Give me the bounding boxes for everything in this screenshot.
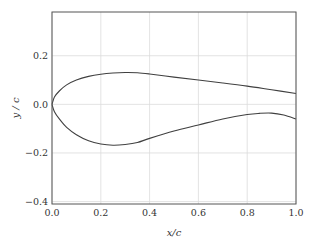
data-series <box>52 73 296 146</box>
x-axis-label: x/c <box>167 227 182 238</box>
y-tick-label: 0.2 <box>33 50 48 61</box>
x-tick-label: 0.0 <box>44 207 59 218</box>
x-tick-label: 0.4 <box>142 207 157 218</box>
x-tick-label: 0.6 <box>191 207 206 218</box>
upper-surface-line <box>52 73 296 105</box>
y-tick-label: −0.2 <box>25 147 48 158</box>
lower-surface-line <box>52 104 296 145</box>
y-axis-label: y / c <box>10 97 21 119</box>
y-tick-labels: 0.20.0−0.2−0.4 <box>25 50 48 207</box>
y-tick-label: 0.0 <box>33 99 48 110</box>
x-tick-label: 0.8 <box>240 207 255 218</box>
axes-frame <box>52 12 296 204</box>
airfoil-chart: 0.00.20.40.60.81.0 0.20.0−0.2−0.4 x/c y … <box>0 0 316 240</box>
grid-lines <box>52 12 296 204</box>
x-tick-label: 1.0 <box>288 207 303 218</box>
x-tick-label: 0.2 <box>93 207 108 218</box>
x-tick-labels: 0.00.20.40.60.81.0 <box>44 207 303 218</box>
y-tick-label: −0.4 <box>25 196 48 207</box>
